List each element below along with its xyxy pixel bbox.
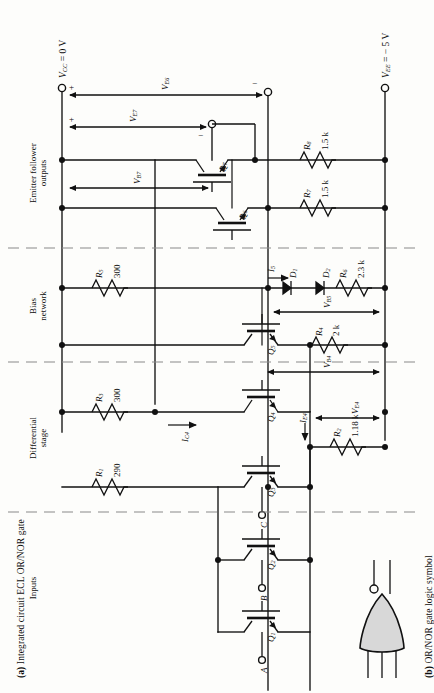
node — [215, 557, 221, 563]
section-label-inputs: Inputs — [28, 558, 38, 618]
terminal-input-A — [259, 657, 266, 664]
label-Q7: Q7 — [218, 162, 228, 172]
label-R8-name: R8 — [302, 141, 312, 150]
polarity-minus-ve6: − — [252, 78, 257, 88]
label-input-A: A — [259, 668, 269, 674]
label-Q3: Q3 — [266, 487, 276, 497]
label-IC4: IC4 — [180, 432, 190, 442]
label-R1-name: R1 — [94, 468, 104, 477]
label-R4-name: R4 — [314, 327, 324, 336]
label-R4-value: 2 k — [331, 325, 341, 336]
label-VB7: VB7 — [132, 172, 142, 184]
node — [59, 409, 65, 415]
node — [152, 409, 158, 415]
label-R6-value: 2.3 k — [356, 260, 366, 278]
node — [382, 205, 388, 211]
node — [382, 444, 388, 450]
figure-sheet: VCC = 0 V VEE = − 5 V + + − − Emitter fo… — [0, 0, 434, 693]
section-label-bias-network: Biasnetwork — [28, 270, 49, 342]
node — [59, 342, 65, 348]
diode-D1 — [283, 281, 291, 295]
label-R5-name: R5 — [94, 269, 104, 278]
label-Q5: Q5 — [266, 345, 276, 355]
gate-body — [360, 594, 404, 652]
section-label-differential-stage: Differentialstage — [28, 398, 49, 478]
polarity-plus-ve7: + — [69, 114, 74, 124]
section-label-emitter-follower: Emitter followeroutputs — [28, 118, 49, 228]
node — [307, 557, 313, 563]
caption-b: (b) OR/NOR gate logic symbol — [424, 555, 434, 678]
node — [59, 205, 65, 211]
label-R3-name: R3 — [94, 393, 104, 402]
terminal-input-C — [259, 512, 266, 519]
node — [382, 157, 388, 163]
node — [59, 157, 65, 163]
terminal-nor-output — [264, 88, 271, 95]
label-R2-name: R2 — [332, 428, 342, 437]
label-input-B: B — [259, 596, 269, 602]
label-VE6: VE6 — [160, 78, 170, 90]
label-VE7: VE7 — [128, 110, 138, 122]
label-vee: VEE = − 5 V — [381, 33, 391, 78]
terminal-vee — [381, 84, 388, 91]
label-R5-value: 300 — [112, 265, 122, 279]
label-R3-value: 300 — [112, 389, 122, 403]
label-R8-value: 1.5 k — [320, 132, 330, 150]
terminal-vcc — [58, 84, 65, 91]
node — [382, 342, 388, 348]
label-Q6: Q6 — [238, 210, 248, 220]
label-vcc: VCC = 0 V — [58, 40, 68, 78]
label-D1: D1 — [288, 268, 298, 278]
label-VB5: VB5 — [322, 296, 332, 308]
label-R7-name: R7 — [302, 189, 312, 198]
inversion-bubble-icon — [370, 585, 378, 593]
terminal-input-B — [259, 585, 266, 592]
label-IE4: IE4 — [298, 413, 308, 423]
label-R1-value: 290 — [112, 464, 122, 478]
circuit-schematic — [0, 0, 434, 693]
label-R2-value: 1.18 k — [350, 415, 360, 438]
polarity-minus-ve7: − — [198, 130, 203, 140]
node — [59, 285, 65, 291]
transistor-Q3 — [242, 456, 280, 512]
label-VB4: VB4 — [322, 356, 332, 368]
node — [265, 205, 271, 211]
transistor-Q1 — [242, 601, 280, 657]
node — [382, 285, 388, 291]
label-D2: D2 — [321, 268, 331, 278]
or-nor-gate-symbol — [360, 560, 404, 678]
caption-a: (a) Integrated circuit ECL OR/NOR gate — [16, 519, 26, 678]
label-Q1: Q1 — [266, 632, 276, 642]
transistor-Q2 — [242, 529, 280, 585]
diode-D2 — [316, 281, 324, 295]
label-R7-value: 1.5 k — [320, 180, 330, 198]
node — [265, 285, 271, 291]
label-Q2: Q2 — [266, 560, 276, 570]
transistor-Q4 — [242, 380, 280, 412]
label-Q4: Q4 — [266, 412, 276, 422]
node — [382, 409, 388, 415]
polarity-plus-vcc: + — [69, 82, 74, 92]
label-VE4: VE4 — [350, 402, 360, 414]
label-R6-name: R6 — [338, 269, 348, 278]
label-input-C: C — [259, 522, 269, 528]
transistor-Q5 — [242, 314, 280, 345]
label-I5: I5 — [266, 266, 276, 272]
